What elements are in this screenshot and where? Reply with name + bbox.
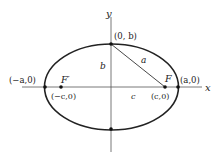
top-vertex-point: [109, 42, 113, 46]
left-focus-label: F′: [60, 74, 71, 85]
right-focus-point: [163, 85, 167, 89]
bottom-vertex-point: [109, 127, 113, 131]
x-axis-label: x: [205, 82, 211, 93]
right-vertex-point: [176, 85, 180, 89]
y-axis-label: y: [105, 8, 112, 19]
segment-a-label: a: [141, 55, 146, 65]
top-vertex-label: (0, b): [114, 31, 137, 41]
left-focus-coord-label: (−c,0): [51, 92, 76, 101]
right-focus-label: F: [164, 73, 172, 84]
segment-b-label: b: [100, 61, 106, 71]
left-focus-point: [59, 85, 63, 89]
left-vertex-point: [43, 85, 47, 89]
segment-a: [111, 44, 165, 87]
right-focus-coord-label: (c,0): [151, 92, 169, 101]
right-vertex-label: (a,0): [180, 75, 200, 85]
ellipse-diagram: y x (0, b) (−a,0) (a,0) (−c,0) (c,0) F′ …: [0, 0, 214, 161]
left-vertex-label: (−a,0): [9, 75, 36, 85]
segment-c-label: c: [131, 92, 136, 101]
